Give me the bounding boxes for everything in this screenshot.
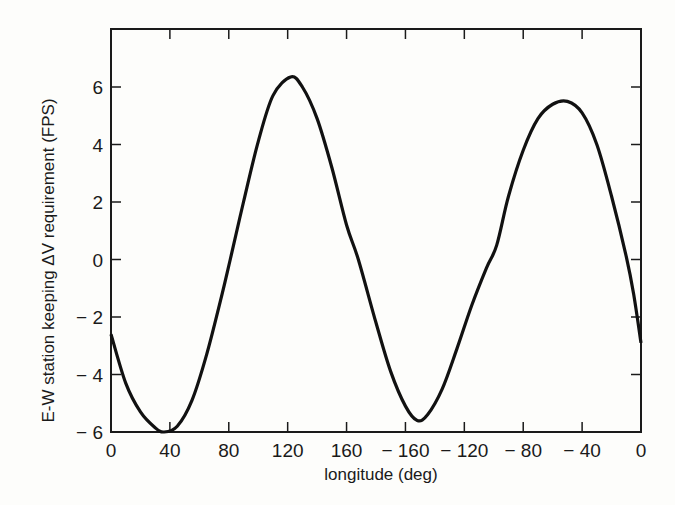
x-tick-label: 80 bbox=[218, 440, 239, 461]
x-tick-labels: 04080120160− 160− 120− 80− 400 bbox=[106, 440, 647, 461]
y-tick-label: − 2 bbox=[76, 307, 103, 328]
x-tick-label: − 80 bbox=[504, 440, 542, 461]
y-tick-label: 2 bbox=[92, 192, 103, 213]
y-tick-label: 6 bbox=[92, 77, 103, 98]
series-line bbox=[111, 77, 641, 432]
chart: 04080120160− 160− 120− 80− 400 6420− 2− … bbox=[0, 0, 675, 505]
x-tick-label: 160 bbox=[331, 440, 363, 461]
x-tick-label: 120 bbox=[272, 440, 304, 461]
y-tick-label: − 4 bbox=[76, 365, 103, 386]
y-tick-label: − 6 bbox=[76, 422, 103, 443]
x-axis-title: longitude (deg) bbox=[324, 465, 437, 484]
series-group bbox=[111, 77, 641, 432]
x-tick-label: 0 bbox=[636, 440, 647, 461]
plot-frame bbox=[111, 29, 641, 432]
y-tick-label: 4 bbox=[92, 135, 103, 156]
x-tick-label: 40 bbox=[159, 440, 180, 461]
x-tick-label: − 120 bbox=[440, 440, 488, 461]
x-tick-label: − 160 bbox=[381, 440, 429, 461]
x-tick-label: 0 bbox=[106, 440, 117, 461]
y-tick-label: 0 bbox=[92, 250, 103, 271]
tick-marks bbox=[111, 29, 641, 432]
y-axis-title: E-W station keeping ΔV requirement (FPS) bbox=[39, 98, 58, 422]
y-tick-labels: 6420− 2− 4− 6 bbox=[76, 77, 103, 443]
x-tick-label: − 40 bbox=[563, 440, 601, 461]
